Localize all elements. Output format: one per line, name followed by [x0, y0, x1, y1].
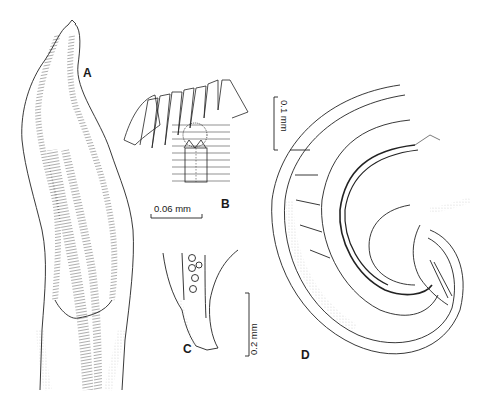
- scale-bar-b: [151, 214, 202, 218]
- panel-c-drawing: [163, 250, 238, 350]
- figure-drawing: [0, 0, 491, 403]
- scale-label-d: 0.1 mm: [279, 100, 290, 132]
- panel-a-drawing: [22, 20, 134, 390]
- panel-label-b: B: [221, 197, 230, 211]
- scale-label-b: 0.06 mm: [154, 203, 191, 214]
- panel-label-a: A: [83, 66, 92, 80]
- panel-label-c: C: [183, 342, 192, 356]
- scale-bar-d: [274, 97, 278, 150]
- panel-d-drawing: [272, 85, 470, 354]
- panel-b-drawing: [124, 80, 248, 182]
- panel-label-d: D: [301, 348, 310, 362]
- scale-label-c: 0.2 mm: [248, 323, 259, 355]
